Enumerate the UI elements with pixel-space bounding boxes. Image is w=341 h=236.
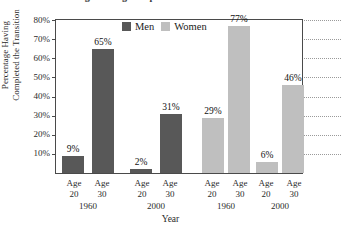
y-tick-label: 60%: [24, 54, 50, 63]
y-tick-label: 70%: [24, 35, 50, 44]
x-axis-year-label: 2000: [126, 201, 186, 212]
x-axis-age-word: Age: [252, 178, 280, 189]
x-axis-age-word: Age: [88, 178, 116, 189]
x-axis-age-number: 20: [252, 189, 280, 200]
x-axis-age-label: Age20: [198, 178, 226, 200]
y-axis-title-line-2: Completed the Transition: [11, 0, 22, 115]
x-axis-age-word: Age: [128, 178, 156, 189]
x-axis-age-word: Age: [156, 178, 184, 189]
bar-value-label: 2%: [122, 157, 160, 167]
bar-value-label: 31%: [152, 102, 190, 112]
bars-layer: 9%65%2%31%29%77%6%46%: [56, 20, 302, 173]
x-axis-age-number: 30: [156, 189, 184, 200]
chart-page: Percentage Having Completed the Transiti…: [0, 0, 341, 236]
x-axis-year-label: 1960: [58, 201, 118, 212]
bar: [92, 49, 114, 173]
x-axis-age-number: 30: [88, 189, 116, 200]
bar-value-label: 65%: [84, 37, 122, 47]
x-axis-year-label: 2000: [250, 201, 310, 212]
x-axis-age-number: 20: [60, 189, 88, 200]
x-axis-age-word: Age: [198, 178, 226, 189]
x-axis-age-label: Age30: [280, 178, 308, 200]
y-tick-label: 40%: [24, 92, 50, 101]
x-axis-age-word: Age: [280, 178, 308, 189]
legend-swatch-men: [122, 22, 131, 31]
x-axis-age-label: Age20: [252, 178, 280, 200]
x-axis-age-word: Age: [60, 178, 88, 189]
x-axis-group: Age20Age301960: [58, 178, 118, 212]
x-axis-group: Age20Age302000: [126, 178, 186, 212]
bar-value-label: 29%: [194, 106, 232, 116]
bar: [256, 162, 278, 173]
y-tick-label: 20%: [24, 130, 50, 139]
y-tick-label: 30%: [24, 111, 50, 120]
legend-label-women: Women: [174, 21, 206, 32]
y-tick-label: 80%: [24, 16, 50, 25]
x-axis-age-label: Age20: [128, 178, 156, 200]
bar: [282, 85, 304, 173]
x-axis-age-number: 20: [128, 189, 156, 200]
chart-title: Percentage Having Completed the Transiti…: [0, 0, 341, 3]
x-axis-age-label: Age30: [156, 178, 184, 200]
x-axis-group: Age20Age301960: [196, 178, 256, 212]
x-axis-age-number: 20: [198, 189, 226, 200]
bar: [130, 169, 152, 173]
bar-value-label: 77%: [220, 14, 258, 24]
legend-item-men: Men: [122, 21, 154, 32]
bar: [160, 114, 182, 173]
bar: [62, 156, 84, 173]
bar-value-label: 6%: [248, 150, 286, 160]
bar-value-label: 46%: [274, 73, 312, 83]
bar: [202, 118, 224, 173]
bar: [228, 26, 250, 173]
y-axis-title-line-1: Percentage Having: [0, 0, 11, 115]
x-axis-group: Age20Age302000: [250, 178, 310, 212]
legend: Men Women: [122, 21, 207, 32]
x-axis-age-number: 30: [280, 189, 308, 200]
x-axis-title: Year: [0, 214, 341, 224]
x-axis-age-label: Age20: [60, 178, 88, 200]
legend-label-men: Men: [135, 21, 154, 32]
y-axis-tick-labels: 10%20%30%40%50%60%70%80%: [22, 0, 50, 236]
x-axis-year-label: 1960: [196, 201, 256, 212]
bar-value-label: 9%: [54, 144, 92, 154]
x-axis-age-label: Age30: [88, 178, 116, 200]
y-tick-label: 10%: [24, 149, 50, 158]
legend-swatch-women: [161, 22, 170, 31]
y-tick-label: 50%: [24, 73, 50, 82]
legend-item-women: Women: [161, 21, 206, 32]
